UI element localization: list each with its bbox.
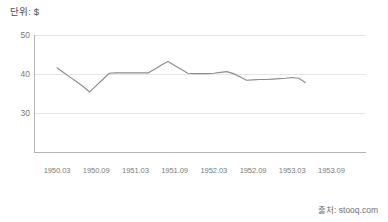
- chart-plot-svg: [0, 0, 388, 222]
- chart-container: 단위: $ 504030 1950.031950.091951.031951.0…: [0, 0, 388, 222]
- source-attribution: 출처: stooq.com: [318, 205, 378, 216]
- data-series-line: [57, 62, 305, 92]
